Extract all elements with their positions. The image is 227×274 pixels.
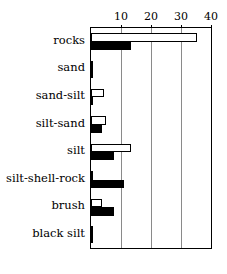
bar-open-silt-sand xyxy=(91,116,106,124)
y-category-label-silt-sand: silt-sand xyxy=(36,117,85,130)
x-tick-label-20: 20 xyxy=(141,11,161,23)
bar-open-black-silt xyxy=(91,226,93,234)
gridline-20 xyxy=(151,28,152,248)
y-category-label-silt: silt xyxy=(67,144,85,157)
bar-filled-brush xyxy=(91,207,114,215)
x-tick-label-40: 40 xyxy=(201,11,221,23)
bar-open-silt-shell-rock xyxy=(91,171,93,179)
y-category-label-sand-silt: sand-silt xyxy=(36,89,85,102)
gridline-30 xyxy=(181,28,182,248)
y-category-label-black-silt: black silt xyxy=(32,227,85,240)
bar-filled-rocks xyxy=(91,42,131,50)
bar-filled-silt-sand xyxy=(91,125,102,133)
bar-open-brush xyxy=(91,199,102,207)
bar-filled-black-silt xyxy=(91,235,93,243)
bar-filled-silt xyxy=(91,152,114,160)
bar-chart-figure: 10 20 30 40 rockssandsand-siltsilt-sands… xyxy=(0,0,227,274)
y-category-label-sand: sand xyxy=(57,61,85,74)
x-tick-label-10: 10 xyxy=(111,11,131,23)
y-category-label-rocks: rocks xyxy=(53,34,85,47)
bar-filled-sand-silt xyxy=(91,97,93,105)
gridline-10 xyxy=(121,28,122,248)
x-tick-label-30: 30 xyxy=(171,11,191,23)
bar-open-sand-silt xyxy=(91,89,104,97)
bar-filled-silt-shell-rock xyxy=(91,180,124,188)
plot-area xyxy=(90,27,212,249)
y-category-label-brush: brush xyxy=(51,199,85,212)
y-category-label-silt-shell-rock: silt-shell-rock xyxy=(6,172,85,185)
bar-open-silt xyxy=(91,144,131,152)
bar-filled-sand xyxy=(91,69,93,77)
bar-open-rocks xyxy=(91,33,197,41)
bar-open-sand xyxy=(91,61,93,69)
